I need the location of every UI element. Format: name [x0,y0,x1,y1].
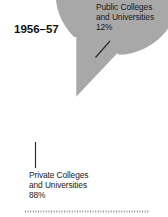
public-slice-callout: Public Colleges and Universities 12% [96,2,154,32]
private-callout-line1: Private Colleges [29,170,88,180]
private-slice-callout: Private Colleges and Universities 88% [29,170,88,200]
public-callout-line2: and Universities [96,12,154,22]
private-callout-value: 88% [29,190,88,200]
pie-chart-figure: 1956–57 Public Colleges and Universities… [0,0,168,217]
chart-title: 1956–57 [14,24,59,34]
public-callout-value: 12% [96,22,154,32]
private-callout-line2: and Universities [29,180,88,190]
public-callout-line1: Public Colleges [96,2,154,12]
